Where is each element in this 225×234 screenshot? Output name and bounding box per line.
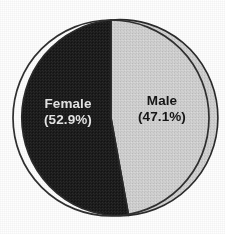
pie-label-female-value: (52.9%) — [20, 112, 116, 128]
pie-label-female-name: Female — [20, 96, 116, 112]
pie-label-male: Male (47.1%) — [123, 93, 201, 124]
pie-chart-figure: Female (52.9%) Male (47.1%) — [0, 0, 225, 234]
pie-label-male-name: Male — [123, 93, 201, 109]
pie-label-male-value: (47.1%) — [123, 109, 201, 125]
pie-label-female: Female (52.9%) — [20, 96, 116, 127]
